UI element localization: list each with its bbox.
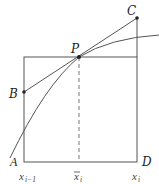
label-d: D: [141, 155, 152, 169]
label-x-i-minus-1: x i−1: [18, 170, 36, 184]
label-x-i: x i: [131, 170, 140, 184]
label-c: C: [127, 4, 136, 18]
diagram-canvas: P B C A D x i−1 x i x i: [0, 0, 159, 184]
svg-text:x: x: [18, 170, 24, 182]
svg-text:i: i: [80, 175, 82, 184]
svg-text:i−1: i−1: [25, 175, 36, 184]
rectangle: [24, 57, 137, 162]
label-a: A: [9, 155, 18, 169]
svg-text:i: i: [138, 175, 140, 184]
label-x-bar-i: x i: [73, 170, 82, 184]
label-p: P: [70, 42, 80, 56]
label-b: B: [8, 87, 18, 101]
point-b: [22, 90, 26, 94]
svg-text:x: x: [131, 170, 137, 182]
tangent-line: [24, 18, 137, 92]
